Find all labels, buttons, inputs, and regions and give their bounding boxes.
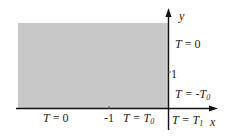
boundary-value-diagram: y x -1 1 T = 0 T = T0 T = 0 T = -T0 T = … xyxy=(0,0,226,139)
bc-right-lower: T = -T0 xyxy=(175,88,210,102)
x-axis-arrow-icon xyxy=(209,106,218,112)
shaded-region xyxy=(18,23,168,108)
bc-left-bottom: T = 0 xyxy=(43,112,68,124)
bc-middle-bottom: T = T0 xyxy=(123,112,154,126)
y-tick-label: 1 xyxy=(171,68,177,80)
x-tick-label: -1 xyxy=(104,112,114,124)
x-axis-label: x xyxy=(210,116,215,128)
bc-right-upper: T = 0 xyxy=(175,38,200,50)
y-axis-label: y xyxy=(179,10,184,22)
bc-origin-below: T = T1 xyxy=(172,114,203,128)
y-axis-arrow-icon xyxy=(166,8,172,17)
